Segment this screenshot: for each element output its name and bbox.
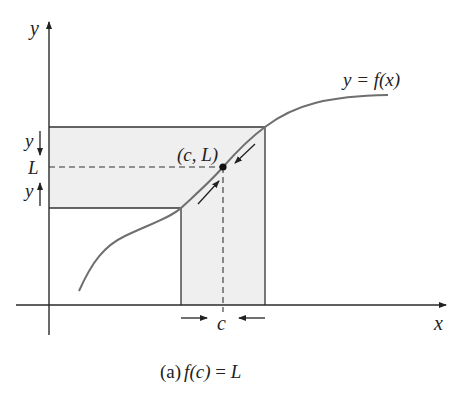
point-label: (c, L) (177, 144, 218, 166)
x-axis-label: x (433, 312, 443, 334)
caption-L: L (230, 361, 242, 382)
point-c-L (219, 163, 226, 170)
L-tick-label: L (27, 157, 39, 178)
caption-arg: (c) (189, 361, 210, 383)
caption-equals: = (210, 361, 230, 382)
lower-y-label: y (23, 180, 34, 201)
limit-continuity-diagram: y x y = f(x) (c, L) L c y y (a)f(c) = L (0, 0, 464, 403)
caption-prefix: (a) (160, 361, 181, 383)
y-axis-label: y (28, 17, 39, 40)
figure-caption: (a)f(c) = L (160, 361, 241, 383)
upper-y-label: y (23, 130, 34, 151)
c-tick-label: c (217, 312, 226, 334)
curve-label: y = f(x) (341, 69, 400, 91)
